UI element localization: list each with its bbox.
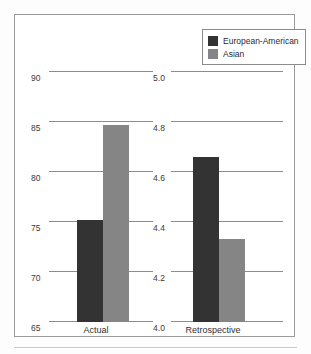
axis-tick-actual-90: 90 — [31, 73, 41, 83]
figure-container: 90 85 80 75 70 65 Actual 5.0 4.8 4.6 — [0, 0, 311, 354]
legend-swatch-european-american-icon — [208, 36, 218, 46]
gridline-retrospective-4-4 — [171, 221, 283, 222]
caption-divider — [14, 347, 297, 348]
bar-actual-european-american[interactable] — [77, 220, 103, 322]
axis-tick-actual-75: 75 — [31, 223, 41, 233]
axis-tick-retrospective-4-6: 4.6 — [153, 173, 165, 183]
axis-tick-retrospective-5-0: 5.0 — [153, 73, 165, 83]
gridline-retrospective-5-0 — [171, 71, 283, 72]
gridline-actual-90 — [49, 71, 153, 72]
gridline-actual-80 — [49, 171, 153, 172]
axis-tick-actual-65: 65 — [31, 323, 41, 333]
legend-item-asian: Asian — [208, 47, 299, 60]
gridline-retrospective-4-6 — [171, 171, 283, 172]
axis-tick-actual-85: 85 — [31, 123, 41, 133]
panel-actual: 90 85 80 75 70 65 Actual — [31, 15, 153, 336]
axis-tick-retrospective-4-8: 4.8 — [153, 123, 165, 133]
legend-label-european-american: European-American — [223, 36, 299, 46]
legend-label-asian: Asian — [223, 49, 244, 59]
axis-tick-retrospective-4-4: 4.4 — [153, 223, 165, 233]
legend-swatch-asian-icon — [208, 49, 218, 59]
chart-legend: European-American Asian — [202, 29, 306, 65]
bar-retrospective-european-american[interactable] — [193, 157, 219, 322]
axis-tick-actual-80: 80 — [31, 173, 41, 183]
chart-frame: 90 85 80 75 70 65 Actual 5.0 4.8 4.6 — [14, 14, 295, 337]
bar-retrospective-asian[interactable] — [219, 239, 245, 322]
gridline-retrospective-4-8 — [171, 121, 283, 122]
legend-item-european-american: European-American — [208, 34, 299, 47]
axis-tick-retrospective-4-0: 4.0 — [153, 323, 165, 333]
caption-strip — [0, 347, 311, 354]
axis-tick-actual-70: 70 — [31, 273, 41, 283]
bar-actual-asian[interactable] — [103, 125, 129, 322]
axis-tick-retrospective-4-2: 4.2 — [153, 273, 165, 283]
category-label-actual: Actual — [59, 325, 133, 335]
gridline-actual-85 — [49, 121, 153, 122]
category-label-retrospective: Retrospective — [171, 325, 255, 335]
